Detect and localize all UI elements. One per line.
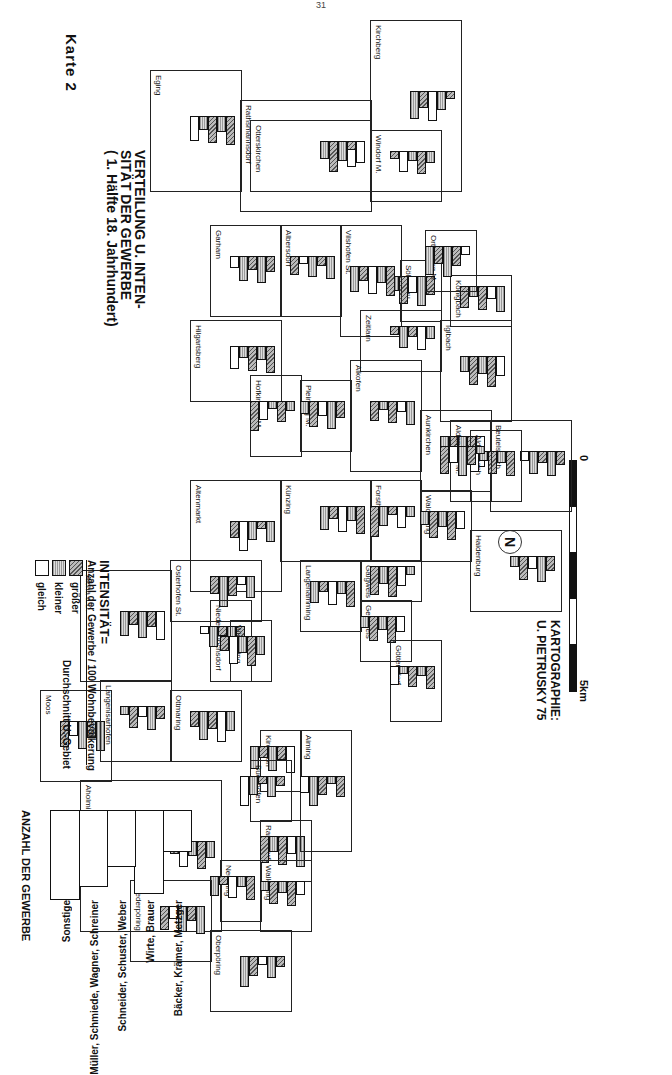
- region-bar-chart: [420, 511, 465, 540]
- region-bar: [266, 346, 275, 373]
- region-bar: [266, 521, 275, 542]
- region-bar: [428, 91, 437, 121]
- region-bar-chart: [350, 266, 395, 296]
- region-bar: [250, 401, 259, 431]
- region-bar: [240, 776, 249, 806]
- region-bar: [338, 506, 347, 532]
- region-bar: [317, 256, 326, 266]
- region-bar-chart: [120, 706, 165, 730]
- region-name: Zeitlarn: [364, 315, 373, 342]
- key-label-2: Wirte, Brauer: [145, 900, 156, 963]
- legend-comparison: Durchschnitt U.-Gebiet: [60, 660, 72, 769]
- region-bar: [538, 451, 547, 463]
- region-bar-chart: [370, 401, 415, 425]
- region-bar: [309, 401, 318, 427]
- region-name: Aunkirchen: [424, 415, 433, 455]
- region-bar: [447, 511, 456, 540]
- region-bar: [237, 876, 246, 887]
- region-bar: [337, 581, 346, 594]
- key-chart: Bäcker, Krämer, Metzger Wirte, Brauer Sc…: [12, 800, 202, 990]
- region-bar: [390, 326, 399, 335]
- region-bar: [417, 326, 426, 350]
- region-bar: [296, 881, 305, 895]
- region-windorf-m-: Windorf M.: [370, 130, 442, 202]
- region-bar: [510, 556, 519, 567]
- region-name: Alkofen: [354, 365, 363, 392]
- region-bar: [287, 881, 296, 906]
- region-bar: [266, 256, 275, 272]
- region-bar: [426, 666, 435, 689]
- region-bar: [248, 521, 257, 540]
- legend-formula: Anzahl der Gewerbe / 100 Wohnbevölkerung: [86, 560, 97, 771]
- region-bar: [446, 91, 455, 99]
- region-bar: [226, 116, 235, 145]
- region-bar: [258, 956, 267, 965]
- region-bar: [438, 511, 447, 527]
- region-bar: [190, 711, 199, 727]
- region-bar: [228, 576, 237, 596]
- region-bar: [257, 346, 266, 360]
- map-label: Karte 2: [63, 34, 80, 92]
- key-axis-label: ANZAHL DER GEWERBE: [20, 810, 32, 941]
- region-name: Windorf M.: [374, 135, 383, 174]
- region-bar-chart: [230, 521, 275, 551]
- region-bar: [329, 141, 338, 172]
- scale-start: 0: [578, 455, 590, 461]
- region-bar: [147, 706, 156, 730]
- region-bar: [300, 776, 309, 793]
- region-bar: [390, 151, 399, 159]
- region-name: Rathsmannsdorf: [244, 105, 253, 164]
- region-bar: [388, 401, 397, 423]
- region-bar: [460, 356, 469, 372]
- region-bar-chart: [320, 506, 365, 534]
- region-garham: Garham: [210, 225, 282, 317]
- region-göttersdorf: Göttersdorf: [390, 640, 442, 722]
- region-bar: [379, 566, 388, 584]
- region-bar: [287, 836, 296, 854]
- region-bar: [461, 246, 470, 255]
- region-bar: [347, 141, 356, 150]
- region-bar-chart: [320, 141, 365, 172]
- region-bar-chart: [250, 401, 295, 431]
- region-bar: [246, 576, 255, 598]
- region-langenamming: Langenamming: [300, 560, 362, 632]
- region-bar: [397, 401, 406, 412]
- region-bar: [249, 956, 258, 976]
- region-aldenbach-m-: Aldenbach M.: [450, 420, 492, 502]
- region-bar: [399, 326, 408, 348]
- region-bar: [519, 556, 528, 580]
- region-bar: [277, 746, 286, 760]
- region-bar-chart: [390, 326, 435, 350]
- credit: KARTOGRAPHIE: U. PIETRUSKY 75: [534, 620, 562, 721]
- legend-row-gleich: gleich: [35, 560, 49, 771]
- region-bar: [370, 566, 379, 595]
- region-bar: [217, 116, 226, 132]
- region-neusling: Neusling: [220, 860, 262, 922]
- region-bar: [478, 286, 487, 310]
- region-wallerfing: Wallerfing: [260, 860, 312, 932]
- region-bar: [299, 256, 308, 264]
- region-bar: [247, 636, 256, 666]
- region-bar: [469, 356, 478, 385]
- region-bar: [408, 666, 417, 687]
- region-name: Altenmarkt: [194, 485, 203, 523]
- region-eging: Eging: [150, 70, 242, 192]
- region-bar: [260, 881, 269, 891]
- region-bar-chart: [360, 616, 405, 643]
- region-bar: [226, 711, 235, 731]
- region-bar: [420, 511, 429, 525]
- region-bar: [528, 556, 537, 569]
- region-bar: [467, 446, 476, 465]
- region-bar: [318, 776, 327, 795]
- region-bar: [368, 266, 377, 294]
- region-bar-chart: [290, 256, 335, 279]
- region-bar: [278, 881, 287, 893]
- region-bar: [329, 506, 338, 519]
- region-bar: [156, 611, 165, 640]
- region-bar: [328, 581, 337, 605]
- region-bar: [388, 566, 397, 597]
- region-bar: [248, 346, 257, 371]
- region-bar-chart: [230, 346, 275, 373]
- region-bar-chart: [210, 876, 255, 900]
- region-bar: [347, 506, 356, 521]
